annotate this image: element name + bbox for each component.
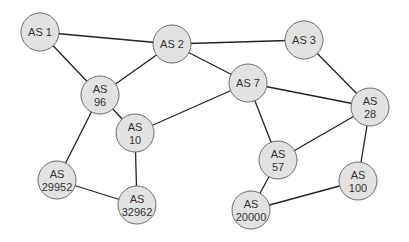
node-as96: AS96 [81, 76, 119, 114]
node-as7: AS 7 [229, 64, 267, 102]
node-as28: AS28 [351, 88, 389, 126]
node-label: AS 1 [28, 26, 52, 38]
node-label: AS 7 [236, 77, 260, 89]
node-label: AS 2 [160, 38, 184, 50]
node-label: AS [271, 148, 286, 160]
node-label: 100 [349, 182, 367, 194]
node-label: AS [128, 121, 143, 133]
node-label: AS [130, 193, 145, 205]
node-as3: AS 3 [285, 21, 323, 59]
as-network-diagram: AS 1AS 2AS 3AS96AS 7AS28AS10AS57AS100AS2… [0, 0, 409, 242]
node-as100: AS100 [339, 162, 377, 200]
node-label: 96 [94, 96, 106, 108]
node-label: 10 [129, 134, 141, 146]
node-label: AS [363, 95, 378, 107]
node-as57: AS57 [259, 141, 297, 179]
node-as1: AS 1 [21, 13, 59, 51]
node-layer: AS 1AS 2AS 3AS96AS 7AS28AS10AS57AS100AS2… [21, 13, 389, 229]
node-label: AS [93, 83, 108, 95]
node-label: AS 3 [292, 34, 316, 46]
node-as10: AS10 [116, 114, 154, 152]
node-label: 29952 [42, 181, 73, 193]
node-as20000: AS20000 [232, 191, 270, 229]
link-as1-as2 [40, 32, 172, 44]
node-as32962: AS32962 [118, 186, 156, 224]
node-label: 20000 [236, 211, 267, 223]
node-label: AS [351, 169, 366, 181]
node-label: AS [244, 198, 259, 210]
node-as29952: AS29952 [38, 161, 76, 199]
edge-layer [40, 32, 370, 210]
node-label: 57 [272, 161, 284, 173]
link-as2-as3 [172, 40, 304, 44]
node-label: 32962 [122, 206, 153, 218]
node-label: 28 [364, 108, 376, 120]
node-label: AS [50, 168, 65, 180]
node-as2: AS 2 [153, 25, 191, 63]
